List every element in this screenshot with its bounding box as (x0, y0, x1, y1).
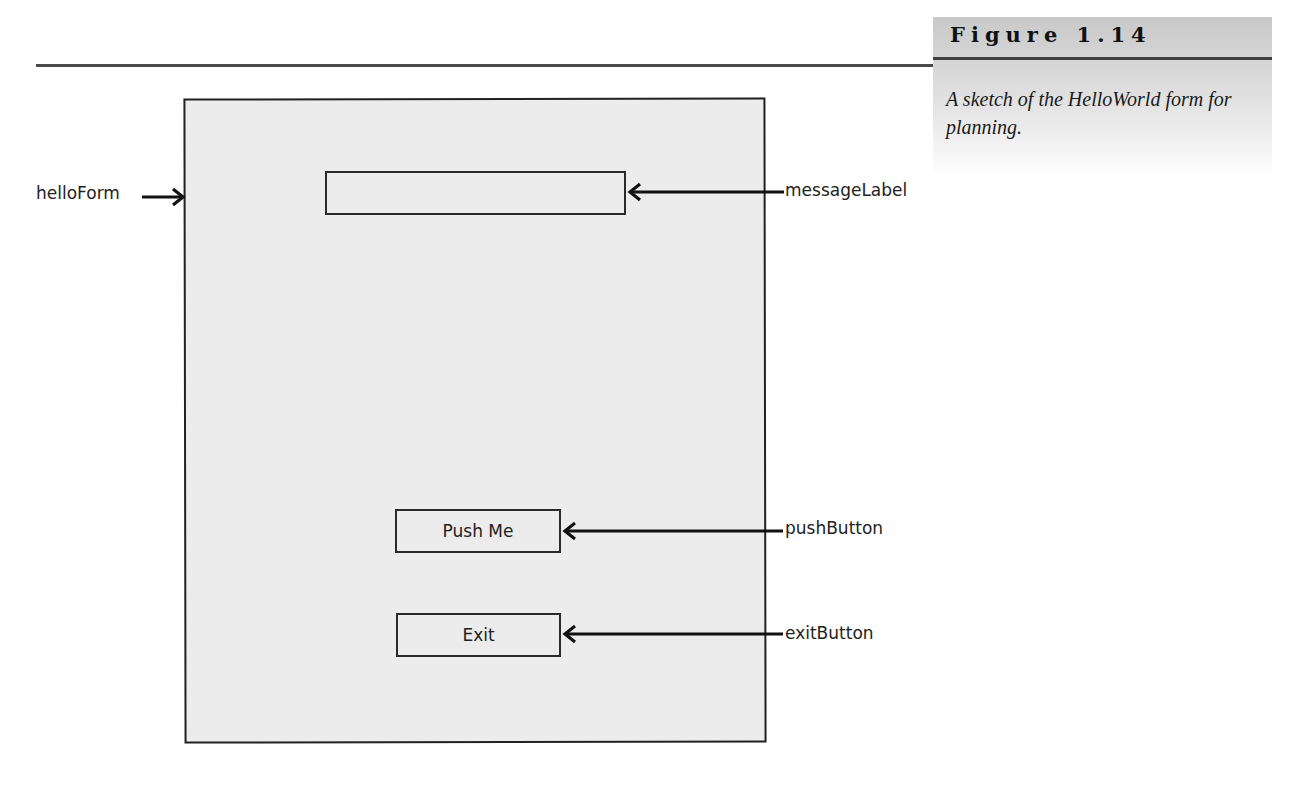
message-label-callout: messageLabel (785, 180, 907, 200)
message-label-box (325, 171, 626, 215)
push-button-box: Push Me (395, 509, 561, 553)
arrow-right-icon (140, 185, 190, 209)
exit-button-text: Exit (462, 625, 494, 645)
exit-button-box: Exit (396, 613, 561, 657)
arrow-left-icon (561, 622, 785, 646)
push-button-callout: pushButton (785, 518, 883, 538)
exit-button-callout: exitButton (785, 623, 874, 643)
arrow-left-icon (626, 180, 786, 204)
figure-caption: A sketch of the HelloWorld form for plan… (946, 85, 1266, 141)
push-button-text: Push Me (443, 521, 514, 541)
caption-rule (933, 57, 1272, 60)
figure-title: Figure 1.14 (950, 22, 1152, 47)
hello-form-label: helloForm (36, 183, 120, 203)
arrow-left-icon (561, 519, 785, 543)
